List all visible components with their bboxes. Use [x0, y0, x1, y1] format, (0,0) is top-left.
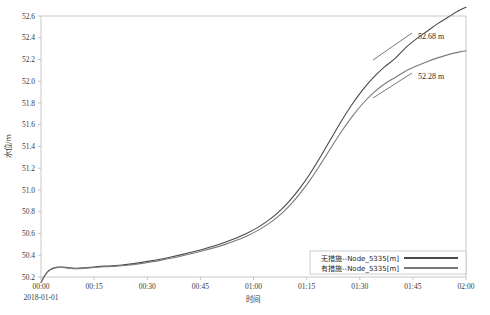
y-tick-label-11: 52.4 — [22, 33, 35, 42]
x-tick-label-0: 00:00 — [32, 282, 49, 291]
x-tick-label-5: 01:15 — [298, 282, 315, 291]
y-tick-label-5: 51.2 — [22, 164, 35, 173]
y-tick-label-0: 50.2 — [22, 273, 35, 282]
y-tick-label-3: 50.8 — [22, 207, 35, 216]
y-tick-label-12: 52.6 — [22, 12, 35, 21]
x-tick-label-8: 02:00 — [457, 282, 474, 291]
y-axis-title: 水位/m — [3, 134, 13, 158]
annotation-group: 52.68 m52.28 m — [373, 32, 445, 98]
y-tick-label-4: 51.0 — [22, 186, 35, 195]
x-axis-start-date: 2018-01-01 — [24, 293, 59, 302]
y-tick-label-9: 52.0 — [22, 77, 35, 86]
y-tick-label-6: 51.4 — [22, 142, 35, 151]
x-tick-label-4: 01:00 — [245, 282, 262, 291]
series-line-0 — [41, 7, 466, 282]
chart-screenshot: 50.250.450.650.851.051.251.451.651.852.0… — [0, 0, 490, 315]
plot-frame — [41, 16, 466, 277]
series-line-1 — [41, 51, 466, 283]
x-tick-label-3: 00:45 — [192, 282, 209, 291]
y-tick-label-1: 50.4 — [22, 251, 35, 260]
y-tick-label-8: 51.8 — [22, 99, 35, 108]
x-axis-tick-labels: 00:0000:1500:3000:4501:0001:1501:3001:45… — [32, 282, 474, 291]
x-tick-label-6: 01:30 — [351, 282, 368, 291]
annotation-label-0: 52.68 m — [418, 32, 445, 41]
x-tick-label-2: 00:30 — [139, 282, 156, 291]
legend[interactable]: 无措施--Node_5335[m] 有措施--Node_5335[m] — [310, 251, 466, 274]
legend-item-label-1: 有措施--Node_5335[m] — [321, 264, 399, 273]
y-tick-label-7: 51.6 — [22, 120, 35, 129]
legend-item-label-0: 无措施--Node_5335[m] — [321, 254, 399, 263]
x-axis-title: 时间 — [246, 294, 260, 304]
y-tick-label-2: 50.6 — [22, 229, 35, 238]
data-series-group — [41, 7, 466, 282]
x-tick-label-1: 00:15 — [86, 282, 103, 291]
y-tick-label-10: 52.2 — [22, 55, 35, 64]
y-axis-tick-labels: 50.250.450.650.851.051.251.451.651.852.0… — [22, 12, 35, 282]
x-tick-label-7: 01:45 — [404, 282, 421, 291]
annotation-leader-1 — [373, 73, 412, 98]
line-chart: 50.250.450.650.851.051.251.451.651.852.0… — [0, 0, 490, 315]
annotation-label-1: 52.28 m — [418, 72, 445, 81]
